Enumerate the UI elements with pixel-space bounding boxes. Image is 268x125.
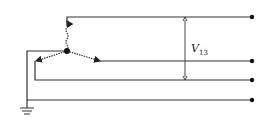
coil-phase-2	[67, 51, 100, 61]
line-1-wire	[67, 17, 252, 26]
neutral-wire	[27, 51, 252, 100]
neutral-node	[64, 48, 70, 54]
voltage-symbol: V	[191, 42, 199, 55]
terminal-line-3	[250, 78, 254, 82]
line-3-wire	[35, 61, 252, 80]
terminal-neutral	[250, 98, 254, 102]
terminal-line-2	[250, 59, 254, 63]
circuit-svg	[0, 0, 268, 125]
terminal-line-1	[250, 15, 254, 19]
ground-icon	[20, 108, 34, 114]
voltage-subscript: 13	[199, 49, 208, 57]
voltage-label: V13	[191, 42, 208, 57]
circuit-diagram: V13	[0, 0, 268, 125]
coil-phase-3	[36, 51, 67, 61]
